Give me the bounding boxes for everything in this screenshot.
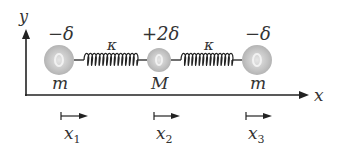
spring-label-1: κ [106, 36, 117, 54]
charge-label-1: −δ [48, 23, 74, 44]
displacement-label-2: x2 [156, 123, 173, 146]
displacement-label-1: x1 [64, 123, 81, 146]
mass-3 [242, 45, 272, 75]
mass-1-ball [44, 45, 74, 75]
mass-3-ball [242, 45, 272, 75]
displacement-label-3: x3 [248, 123, 265, 146]
y-axis [22, 29, 30, 96]
displacement-arrow-1 [61, 112, 88, 120]
x-axis-arrowhead [299, 91, 309, 99]
displacement-arrow-3 [246, 112, 272, 120]
mass-label-3: m [250, 73, 266, 93]
mass-1 [44, 45, 74, 75]
charge-label-3: −δ [245, 23, 271, 44]
y-axis-label: y [18, 7, 29, 26]
spring-2 [171, 53, 242, 65]
mass-label-2: M [150, 73, 169, 93]
displacement-arrow-2 [154, 112, 180, 120]
spring-1 [74, 53, 147, 65]
spring-2-coil [181, 53, 233, 65]
charge-label-2: +2δ [142, 23, 179, 44]
spring-label-2: κ [203, 36, 214, 54]
spring-1-coil [84, 53, 138, 65]
x-axis-label: x [314, 85, 324, 105]
mass-label-1: m [52, 73, 68, 93]
mass-2 [147, 48, 171, 72]
y-axis-arrowhead [22, 29, 30, 39]
mass-2-ball [147, 48, 171, 72]
molecule-spring-diagram: y x −δ +2δ −δ κ κ m M m [0, 0, 338, 162]
